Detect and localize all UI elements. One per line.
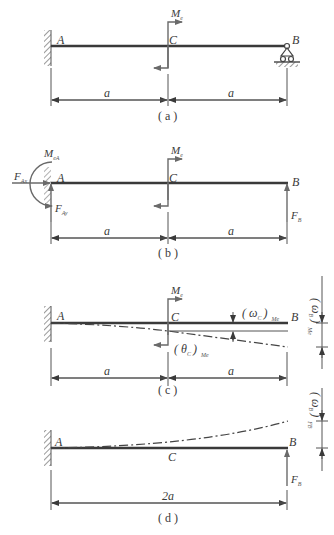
label-A: A <box>56 33 65 47</box>
label-FAy: FAy <box>54 202 68 216</box>
label-B: B <box>291 310 299 324</box>
caption-b: ( b ) <box>158 246 178 260</box>
label-A: A <box>56 171 65 185</box>
dim-a-left: a <box>104 364 110 378</box>
label-B: B <box>289 435 297 449</box>
label-C: C <box>168 450 177 464</box>
dim-a-right: a <box>228 86 234 100</box>
label-Me: Me <box>170 144 183 158</box>
beam-diagram: A C B Me a a ( a ) A C <box>0 0 334 535</box>
panel-c: A C B Me ( ωC)Me ( θC)Me ( ωB)Me a a ( c… <box>44 276 328 397</box>
dim-a-left: a <box>104 224 110 238</box>
label-FB: FB <box>290 473 302 487</box>
label-FB: FB <box>290 209 302 223</box>
label-wB-Me: ( ωB)Me <box>307 298 323 335</box>
caption-a: ( a ) <box>158 109 177 123</box>
panel-d: A C B FB ( ωB)FB 2a ( d ) <box>44 388 328 525</box>
label-C: C <box>171 310 180 324</box>
label-wB-FB: ( ωB)FB <box>307 392 323 429</box>
dim-a-left: a <box>104 86 110 100</box>
label-C: C <box>169 171 178 185</box>
label-A: A <box>54 435 63 449</box>
label-Me: Me <box>170 284 183 298</box>
dim-a-right: a <box>228 224 234 238</box>
panel-a: A C B Me a a ( a ) <box>44 7 300 123</box>
panel-b: A C B Me MeA FAx FAy FB a a ( b ) <box>12 144 302 260</box>
caption-c: ( c ) <box>158 383 177 397</box>
label-B: B <box>292 175 300 189</box>
label-C: C <box>169 33 178 47</box>
dim-a-right: a <box>228 364 234 378</box>
label-B: B <box>292 33 300 47</box>
label-wC: ( ωC)Me <box>242 306 279 322</box>
label-A: A <box>56 309 65 323</box>
fixed-support-icon <box>44 30 51 66</box>
deflection-curve <box>51 421 288 448</box>
deflection-curve <box>51 323 288 347</box>
label-Me: Me <box>170 7 183 21</box>
caption-d: ( d ) <box>158 511 178 525</box>
label-FAx: FAx <box>13 170 27 184</box>
label-thetaC: ( θC)Me <box>174 342 209 358</box>
label-MeA: MeA <box>43 147 60 161</box>
dim-2a: 2a <box>162 489 174 503</box>
